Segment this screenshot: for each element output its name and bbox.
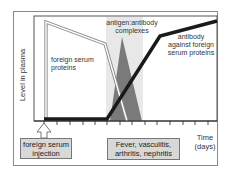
antibody-label: antibody against foreign serum proteins	[166, 33, 216, 57]
label-line: complexes	[106, 27, 158, 35]
label-line: serum proteins	[166, 49, 216, 57]
label-line: against foreign	[166, 41, 216, 49]
x-axis-label: Time (days)	[193, 133, 217, 151]
box-line: injection	[23, 149, 69, 158]
foreign-serum-proteins-label: foreign serum proteins	[51, 56, 94, 72]
box-line: foreign serum	[23, 140, 69, 149]
label-line: antigen:antibody	[106, 19, 158, 27]
injection-box: foreign serum injection	[20, 138, 72, 159]
complexes-label: antigen:antibody complexes	[106, 19, 158, 35]
label-line: (days)	[193, 142, 217, 151]
box-line: Fever, vasculitis,	[115, 140, 172, 149]
y-axis-label: Level in plasma	[18, 49, 27, 101]
label-line: antibody	[166, 33, 216, 41]
label-line: proteins	[51, 64, 94, 72]
symptoms-box: Fever, vasculitis, arthritis, nephritis	[107, 138, 180, 160]
label-line: Time	[193, 133, 217, 142]
injection-arrow-icon	[37, 123, 51, 138]
label-line: foreign serum	[51, 56, 94, 64]
box-line: arthritis, nephritis	[115, 149, 172, 158]
